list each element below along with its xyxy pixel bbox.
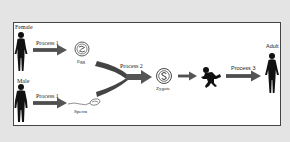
- process-1-arrow-bottom: [33, 98, 67, 109]
- process-3-label: Process 3: [231, 66, 255, 72]
- male-silhouette-icon: [15, 84, 28, 122]
- zygote-label: Zygote: [156, 86, 170, 91]
- process-1-bottom-label: Process 1: [36, 93, 59, 99]
- egg-cell-icon: [75, 42, 89, 56]
- process-3-arrow: [226, 71, 261, 82]
- growth-arrow: [178, 72, 197, 81]
- process-2-label: Process 2: [120, 63, 143, 69]
- zygote-cell-icon: [157, 69, 172, 84]
- egg-label: Egg: [77, 59, 85, 64]
- sperm-label: Sperm: [74, 109, 87, 114]
- process-1-top-label: Process 1: [36, 40, 59, 46]
- process-1-arrow-top: [33, 45, 67, 56]
- female-label: Female: [15, 24, 33, 30]
- adult-label: Adult: [266, 44, 279, 50]
- male-label: Male: [17, 78, 29, 84]
- sperm-cell-icon: [68, 98, 101, 106]
- baby-silhouette-icon: [201, 67, 221, 88]
- female-silhouette-icon: [15, 32, 28, 71]
- adult-silhouette-icon: [265, 53, 279, 93]
